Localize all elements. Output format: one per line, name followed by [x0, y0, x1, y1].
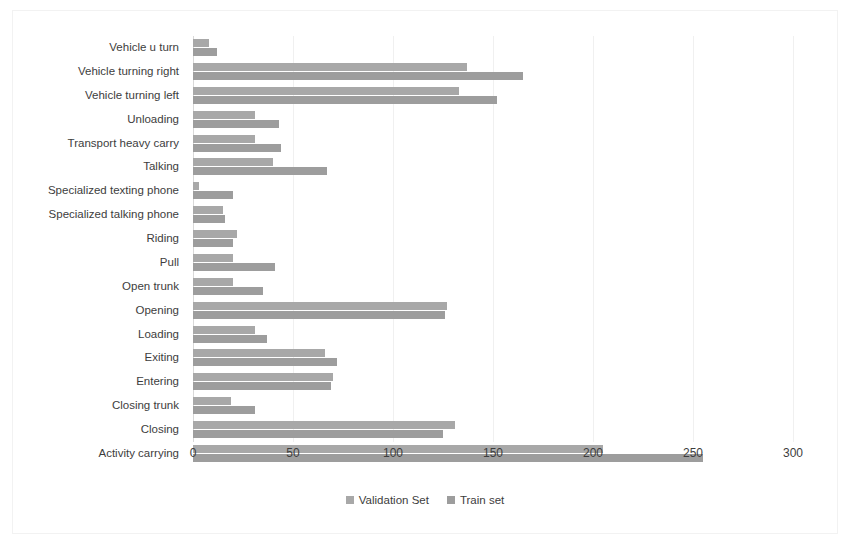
bar-validation-set	[193, 278, 233, 286]
bar-row	[193, 155, 793, 179]
bar-train-set	[193, 287, 263, 295]
bar-validation-set	[193, 158, 273, 166]
bar-row	[193, 60, 793, 84]
legend-swatch-icon	[447, 496, 455, 504]
bar-train-set	[193, 48, 217, 56]
x-tick-label: 250	[683, 446, 703, 460]
chart-legend: Validation SetTrain set	[0, 494, 850, 506]
bar-validation-set	[193, 87, 459, 95]
bar-row	[193, 132, 793, 156]
bar-validation-set	[193, 230, 237, 238]
bar-validation-set	[193, 254, 233, 262]
x-tick-label: 300	[783, 446, 803, 460]
category-label: Specialized talking phone	[0, 203, 186, 227]
category-label: Talking	[0, 155, 186, 179]
category-label: Vehicle turning left	[0, 84, 186, 108]
x-tick-label: 150	[483, 446, 503, 460]
category-axis-labels: Vehicle u turnVehicle turning rightVehic…	[0, 36, 186, 442]
bar-row	[193, 418, 793, 442]
bar-row	[193, 346, 793, 370]
bar-row	[193, 394, 793, 418]
plot-area	[193, 36, 793, 442]
bar-row	[193, 36, 793, 60]
category-label: Pull	[0, 251, 186, 275]
bar-validation-set	[193, 206, 223, 214]
bar-train-set	[193, 215, 225, 223]
x-tick-label: 50	[286, 446, 299, 460]
bar-train-set	[193, 120, 279, 128]
bar-train-set	[193, 335, 267, 343]
category-label: Opening	[0, 299, 186, 323]
bar-validation-set	[193, 39, 209, 47]
bar-chart-figure: Vehicle u turnVehicle turning rightVehic…	[0, 0, 850, 547]
legend-item[interactable]: Train set	[447, 494, 504, 506]
category-label: Unloading	[0, 108, 186, 132]
category-label: Closing trunk	[0, 394, 186, 418]
gridline-300	[793, 36, 794, 442]
bar-validation-set	[193, 326, 255, 334]
category-label: Closing	[0, 418, 186, 442]
category-label: Vehicle u turn	[0, 36, 186, 60]
bar-row	[193, 370, 793, 394]
bar-row	[193, 275, 793, 299]
category-label: Specialized texting phone	[0, 179, 186, 203]
bar-train-set	[193, 72, 523, 80]
bar-validation-set	[193, 135, 255, 143]
legend-label: Validation Set	[359, 494, 429, 506]
bar-validation-set	[193, 182, 199, 190]
category-label: Exiting	[0, 346, 186, 370]
legend-swatch-icon	[346, 496, 354, 504]
bar-validation-set	[193, 111, 255, 119]
bar-train-set	[193, 96, 497, 104]
bar-train-set	[193, 144, 281, 152]
bar-row	[193, 203, 793, 227]
bar-row	[193, 251, 793, 275]
category-label: Activity carrying	[0, 442, 186, 466]
category-label: Transport heavy carry	[0, 132, 186, 156]
bar-validation-set	[193, 373, 333, 381]
legend-item[interactable]: Validation Set	[346, 494, 429, 506]
category-label: Open trunk	[0, 275, 186, 299]
bar-train-set	[193, 239, 233, 247]
bar-validation-set	[193, 63, 467, 71]
x-tick-label: 100	[383, 446, 403, 460]
bar-train-set	[193, 358, 337, 366]
bar-row	[193, 84, 793, 108]
bar-row	[193, 227, 793, 251]
x-tick-label: 200	[583, 446, 603, 460]
category-label: Riding	[0, 227, 186, 251]
x-tick-label: 0	[190, 446, 197, 460]
x-axis-tick-labels: 050100150200250300	[193, 446, 793, 466]
bar-train-set	[193, 406, 255, 414]
bar-train-set	[193, 311, 445, 319]
category-label: Loading	[0, 323, 186, 347]
bar-train-set	[193, 382, 331, 390]
bar-validation-set	[193, 302, 447, 310]
category-label: Entering	[0, 370, 186, 394]
bar-row	[193, 108, 793, 132]
bar-row	[193, 323, 793, 347]
bar-rows	[193, 36, 793, 442]
bar-train-set	[193, 430, 443, 438]
bar-validation-set	[193, 349, 325, 357]
bar-validation-set	[193, 397, 231, 405]
bar-row	[193, 299, 793, 323]
category-label: Vehicle turning right	[0, 60, 186, 84]
bar-train-set	[193, 167, 327, 175]
bar-train-set	[193, 191, 233, 199]
bar-row	[193, 179, 793, 203]
legend-label: Train set	[460, 494, 504, 506]
bar-validation-set	[193, 421, 455, 429]
bar-train-set	[193, 263, 275, 271]
